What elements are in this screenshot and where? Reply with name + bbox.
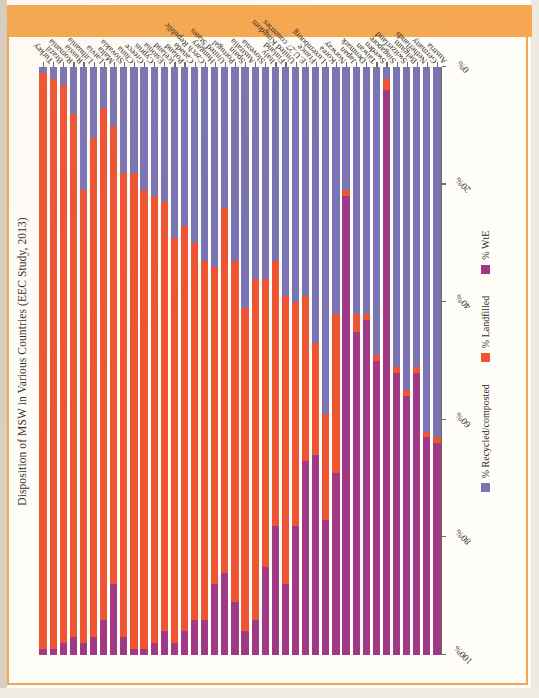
bar-row	[50, 67, 57, 655]
bar-segment-landfilled	[241, 308, 248, 631]
bar-row	[342, 67, 349, 655]
bar-segment-landfilled	[423, 432, 430, 438]
bar-segment-wte	[90, 637, 97, 655]
bar-segment-landfilled	[140, 190, 147, 649]
x-axis-tick	[442, 654, 446, 655]
bar-segment-recycled	[231, 67, 238, 261]
bar-row	[252, 67, 259, 655]
bar-segment-wte	[403, 396, 410, 655]
bar-segment-wte	[60, 643, 67, 655]
category-tick	[296, 62, 297, 67]
bar-row	[322, 67, 329, 655]
bar-segment-landfilled	[120, 173, 127, 638]
bar-segment-wte	[201, 620, 208, 655]
bar-segment-recycled	[383, 67, 390, 79]
bar-segment-landfilled	[60, 85, 67, 644]
page-bottom-margin	[0, 688, 539, 698]
x-axis-tick	[442, 419, 446, 420]
bar-segment-recycled	[221, 67, 228, 208]
bar-segment-wte	[130, 649, 137, 655]
bar-segment-wte	[373, 361, 380, 655]
x-axis-tick	[442, 301, 446, 302]
bar-segment-recycled	[403, 67, 410, 390]
bar-segment-recycled	[151, 67, 158, 196]
legend-label: % Landfilled	[480, 296, 491, 348]
bar-segment-recycled	[70, 67, 77, 114]
bar-segment-landfilled	[130, 173, 137, 649]
bar-segment-recycled	[332, 67, 339, 314]
chart-title: Disposition of MSW in Various Countries …	[16, 40, 28, 683]
page-right-margin	[531, 0, 539, 698]
bar-segment-recycled	[433, 67, 440, 437]
legend-item: % Recycled/composted	[480, 384, 491, 492]
bar-segment-wte	[302, 461, 309, 655]
bar-segment-wte	[211, 584, 218, 655]
bar-segment-landfilled	[181, 226, 188, 632]
bar-segment-landfilled	[39, 73, 46, 649]
bar-row	[191, 67, 198, 655]
bar-row	[120, 67, 127, 655]
bar-segment-landfilled	[312, 343, 319, 455]
bar-segment-wte	[181, 631, 188, 655]
bar-segment-wte	[50, 649, 57, 655]
category-tick	[195, 62, 196, 67]
bar-segment-wte	[282, 584, 289, 655]
bar-segment-wte	[272, 526, 279, 655]
legend-label: % Recycled/composted	[480, 384, 491, 478]
bar-segment-wte	[120, 637, 127, 655]
bar-segment-landfilled	[373, 355, 380, 361]
bar-segment-recycled	[211, 67, 218, 267]
bar-row	[292, 67, 299, 655]
bar-segment-landfilled	[151, 196, 158, 643]
bar-segment-landfilled	[252, 279, 259, 620]
bar-segment-wte	[262, 567, 269, 655]
bar-segment-landfilled	[171, 238, 178, 644]
bar-segment-landfilled	[433, 437, 440, 443]
bar-row	[140, 67, 147, 655]
x-axis-tick	[442, 66, 446, 67]
x-axis-tick-label: 60%	[453, 410, 472, 429]
bar-segment-wte	[383, 91, 390, 655]
bar-row	[80, 67, 87, 655]
bar-segment-recycled	[282, 67, 289, 296]
bar-segment-landfilled	[262, 279, 269, 567]
bar-row	[282, 67, 289, 655]
page-left-margin	[0, 0, 7, 698]
bar-row	[272, 67, 279, 655]
bar-segment-wte	[221, 573, 228, 655]
bar-row	[181, 67, 188, 655]
bar-segment-recycled	[201, 67, 208, 261]
plot-area: AustriaGermanyNetherlandsBelgiumSwitzerl…	[38, 67, 442, 655]
bar-segment-recycled	[252, 67, 259, 279]
bar-row	[161, 67, 168, 655]
bar-segment-recycled	[171, 67, 178, 238]
bar-segment-wte	[332, 473, 339, 655]
bar-segment-wte	[100, 620, 107, 655]
bar-segment-recycled	[353, 67, 360, 314]
legend-label: % WtE	[480, 231, 491, 260]
bar-segment-landfilled	[413, 367, 420, 373]
bar-segment-wte	[413, 373, 420, 655]
legend-item: % Landfilled	[480, 296, 491, 362]
bar-segment-wte	[423, 437, 430, 655]
bar-segment-wte	[140, 649, 147, 655]
bar-row	[423, 67, 430, 655]
x-axis-tick	[442, 536, 446, 537]
bar-segment-recycled	[130, 67, 137, 173]
x-axis-tick-label: 20%	[453, 175, 472, 194]
bar-row	[100, 67, 107, 655]
bar-segment-recycled	[363, 67, 370, 314]
bar-row	[433, 67, 440, 655]
bar-segment-landfilled	[110, 126, 117, 585]
bar-segment-landfilled	[80, 190, 87, 643]
bar-row	[211, 67, 218, 655]
bar-row	[302, 67, 309, 655]
bar-segment-landfilled	[403, 390, 410, 396]
bar-row	[60, 67, 67, 655]
bar-segment-landfilled	[282, 296, 289, 584]
bar-segment-landfilled	[70, 114, 77, 637]
bar-row	[39, 67, 46, 655]
bar-segment-recycled	[191, 67, 198, 243]
bar-segment-landfilled	[272, 261, 279, 526]
bar-segment-recycled	[312, 67, 319, 343]
